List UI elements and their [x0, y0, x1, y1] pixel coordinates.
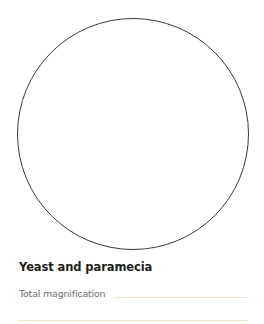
total-magnification-label: Total magnification — [19, 288, 105, 299]
section-title: Yeast and paramecia — [19, 260, 152, 274]
extra-answer-line[interactable] — [18, 320, 249, 321]
total-magnification-answer-line[interactable] — [115, 297, 249, 298]
field-of-view-circle — [17, 18, 249, 250]
